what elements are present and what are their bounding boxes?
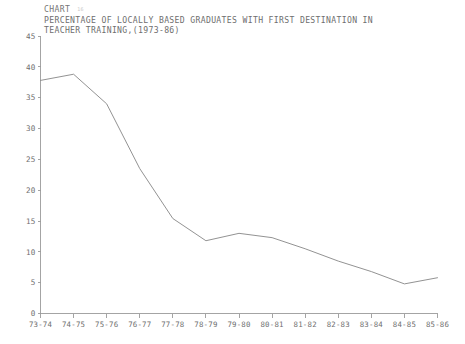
- x-tick-label: 76-77: [128, 320, 151, 329]
- chart-plot: 051015202530354045 73-7474-7575-7676-777…: [0, 0, 465, 344]
- x-axis: 73-7474-7575-7676-7777-7878-7979-8080-81…: [29, 314, 449, 329]
- y-axis: 051015202530354045: [26, 32, 41, 319]
- y-tick-label: 20: [26, 186, 36, 195]
- chart-page: CHART16 PERCENTAGE OF LOCALLY BASED GRAD…: [0, 0, 465, 344]
- y-tick-label: 45: [26, 32, 36, 41]
- x-tick-label: 83-84: [360, 320, 384, 329]
- x-tick-label: 80-81: [260, 320, 283, 329]
- y-tick-label: 15: [26, 217, 36, 226]
- x-tick-label: 85-86: [426, 320, 449, 329]
- x-tick-label: 79-80: [227, 320, 250, 329]
- x-tick-label: 82-83: [327, 320, 350, 329]
- x-tick-label: 74-75: [62, 320, 85, 329]
- x-tick-label: 77-78: [161, 320, 184, 329]
- x-tick-label: 81-82: [294, 320, 317, 329]
- y-tick-label: 0: [31, 309, 36, 318]
- x-tick-labels: 73-7474-7575-7676-7777-7878-7979-8080-81…: [29, 320, 449, 329]
- x-tick-label: 84-85: [393, 320, 416, 329]
- y-tick-label: 5: [31, 278, 36, 287]
- x-tick-label: 78-79: [194, 320, 217, 329]
- y-tick-label: 40: [26, 63, 36, 72]
- x-tick-marks: [41, 314, 438, 318]
- y-tick-label: 10: [26, 248, 36, 257]
- x-tick-label: 73-74: [29, 320, 53, 329]
- y-tick-label: 30: [26, 124, 36, 133]
- y-tick-labels: 051015202530354045: [26, 32, 36, 319]
- data-series-line: [41, 74, 438, 284]
- y-tick-label: 35: [26, 93, 36, 102]
- y-tick-label: 25: [26, 155, 36, 164]
- x-tick-label: 75-76: [95, 320, 118, 329]
